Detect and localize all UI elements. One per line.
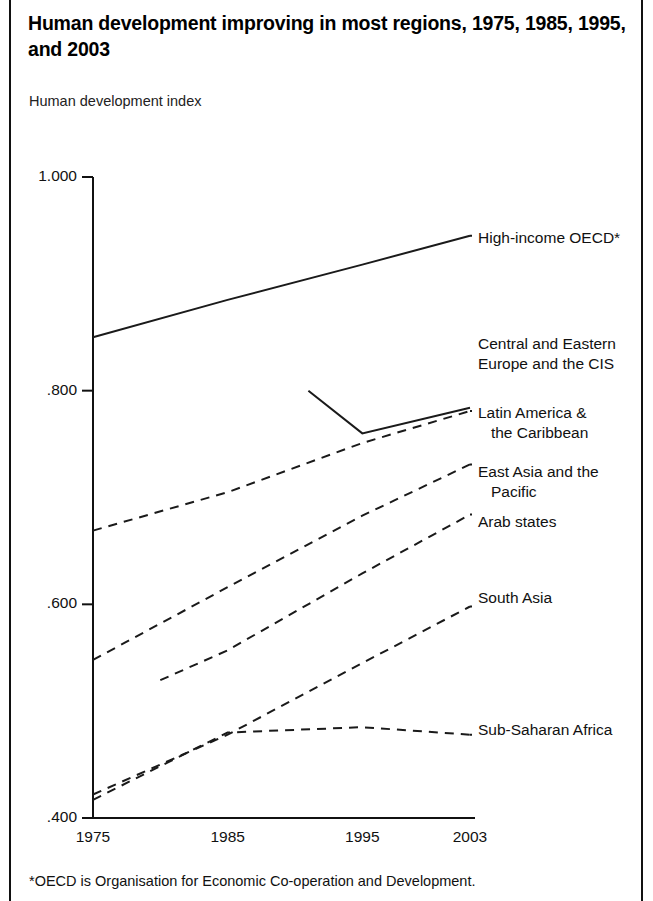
y-tick-label-p400: .400 xyxy=(13,808,77,826)
axes xyxy=(82,177,475,818)
series-label-0: High-income OECD* xyxy=(478,228,620,248)
series-label-line: Arab states xyxy=(478,512,556,532)
series-label-2: Latin America & the Caribbean xyxy=(478,403,588,443)
x-tick-label-1975: 1975 xyxy=(58,828,128,846)
series-label-line: South Asia xyxy=(478,588,552,608)
y-tick-label-p800: .800 xyxy=(13,381,77,399)
series-label-6: Sub-Saharan Africa xyxy=(478,720,612,740)
series-line-3 xyxy=(93,464,470,660)
series-label-line: Pacific xyxy=(478,482,599,502)
x-tick-label-1995: 1995 xyxy=(327,828,397,846)
series-line-0 xyxy=(93,236,470,337)
series-line-1 xyxy=(308,391,470,434)
y-tick-label-p600: .600 xyxy=(13,594,77,612)
plot-svg xyxy=(0,0,653,901)
series-label-line: High-income OECD* xyxy=(478,228,620,248)
series-line-5 xyxy=(93,607,470,795)
series-label-line: East Asia and the xyxy=(478,462,599,482)
series-label-line: the Caribbean xyxy=(478,423,588,443)
series-label-line: Europe and the CIS xyxy=(478,354,616,374)
x-tick-label-2003: 2003 xyxy=(435,828,505,846)
series-label-line: Sub-Saharan Africa xyxy=(478,720,612,740)
series-label-line: Central and Eastern xyxy=(478,334,616,354)
plot-area xyxy=(0,0,653,901)
data-series xyxy=(93,236,472,800)
series-label-line: Latin America & xyxy=(478,403,588,423)
series-label-4: Arab states xyxy=(478,512,556,532)
series-line-6 xyxy=(93,727,470,800)
chart-figure: Human development improving in most regi… xyxy=(0,0,653,901)
series-label-5: South Asia xyxy=(478,588,552,608)
series-label-1: Central and EasternEurope and the CIS xyxy=(478,334,616,374)
x-tick-label-1985: 1985 xyxy=(193,828,263,846)
y-tick-label-1p000: 1.000 xyxy=(13,167,77,185)
series-line-2 xyxy=(93,411,470,531)
series-label-3: East Asia and the Pacific xyxy=(478,462,599,502)
chart-footnote: *OECD is Organisation for Economic Co-op… xyxy=(29,873,476,889)
